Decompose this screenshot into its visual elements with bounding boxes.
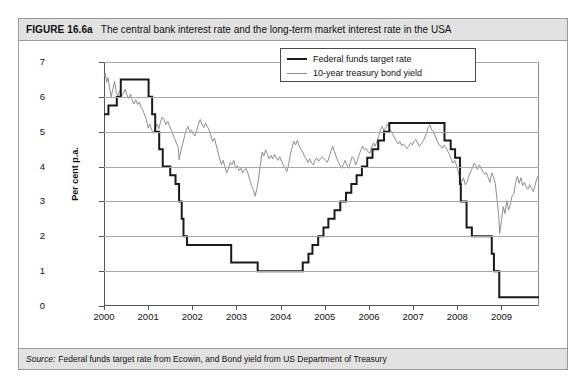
x-tick-label: 2000	[84, 311, 124, 322]
x-tick-mark	[281, 306, 282, 310]
chart-canvas: Per cent p.a. Federal funds target rate …	[19, 41, 567, 348]
x-tick-label: 2006	[349, 311, 389, 322]
x-tick-mark	[148, 306, 149, 310]
x-tick-label: 2002	[172, 311, 212, 322]
x-tick-label: 2001	[128, 311, 168, 322]
x-tick-mark	[325, 306, 326, 310]
figure-number: FIGURE 16.6a	[26, 24, 93, 35]
x-tick-label: 2007	[393, 311, 433, 322]
y-tick-label: 5	[15, 126, 45, 137]
gridline	[104, 132, 539, 133]
legend-swatch-fed-funds-icon	[287, 58, 307, 60]
figure-header: FIGURE 16.6a The central bank interest r…	[19, 19, 567, 41]
y-tick-mark	[99, 97, 104, 98]
y-tick-mark	[99, 201, 104, 202]
source-text: Federal funds target rate from Ecowin, a…	[58, 354, 386, 364]
y-axis-title: Per cent p.a.	[70, 114, 80, 234]
series-layer	[104, 62, 539, 306]
figure-title: The central bank interest rate and the l…	[101, 24, 452, 35]
y-tick-label: 1	[15, 265, 45, 276]
gridline	[104, 167, 539, 168]
legend-label-bond-yield: 10-year treasury bond yield	[313, 68, 422, 78]
x-tick-mark	[501, 306, 502, 310]
figure-source-note: Source: Federal funds target rate from E…	[19, 348, 567, 369]
legend-item-fed-funds: Federal funds target rate	[287, 52, 469, 66]
gridline	[104, 201, 539, 202]
gridline	[104, 271, 539, 272]
x-tick-label: 2005	[305, 311, 345, 322]
x-tick-label: 2009	[481, 311, 521, 322]
x-tick-label: 2008	[437, 311, 477, 322]
x-tick-mark	[369, 306, 370, 310]
figure-frame: FIGURE 16.6a The central bank interest r…	[18, 18, 568, 370]
y-tick-label: 2	[15, 230, 45, 241]
y-tick-mark	[99, 236, 104, 237]
x-tick-label: 2004	[261, 311, 301, 322]
y-tick-label: 7	[15, 56, 45, 67]
y-tick-mark	[99, 62, 104, 63]
y-tick-mark	[99, 167, 104, 168]
y-tick-label: 4	[15, 161, 45, 172]
x-tick-label: 2003	[216, 311, 256, 322]
x-tick-mark	[457, 306, 458, 310]
x-tick-mark	[413, 306, 414, 310]
y-tick-label: 6	[15, 91, 45, 102]
legend-swatch-bond-yield-icon	[287, 73, 307, 74]
x-tick-mark	[236, 306, 237, 310]
y-tick-mark	[99, 132, 104, 133]
legend-label-fed-funds: Federal funds target rate	[313, 54, 412, 64]
gridline	[104, 97, 539, 98]
legend-item-bond-yield: 10-year treasury bond yield	[287, 66, 469, 80]
chart-legend: Federal funds target rate 10-year treasu…	[280, 48, 476, 82]
x-tick-mark	[104, 306, 105, 310]
plot-area	[104, 62, 539, 306]
x-tick-mark	[192, 306, 193, 310]
y-tick-label: 3	[15, 195, 45, 206]
series-line-fed-funds	[104, 79, 539, 297]
gridline	[104, 236, 539, 237]
source-label: Source:	[26, 354, 55, 364]
y-tick-label: 0	[15, 300, 45, 311]
y-tick-mark	[99, 271, 104, 272]
